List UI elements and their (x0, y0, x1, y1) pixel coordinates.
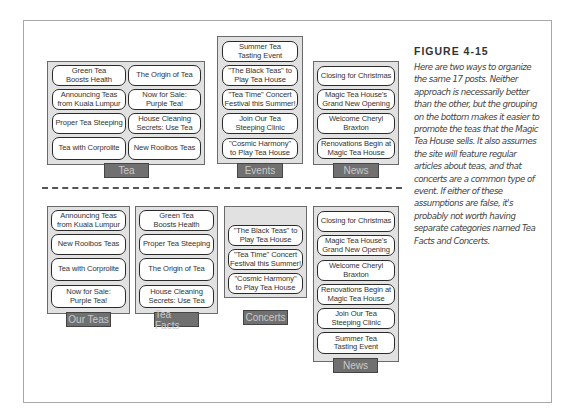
post-card: House Cleaning Secrets: Use Tea (139, 285, 214, 308)
post-card: Tea with Corprolite (51, 258, 126, 281)
post-card: Renovations Begin at Magic Tea House (317, 138, 395, 159)
post-card: Summer Tea Tasting Event (317, 332, 395, 354)
post-card: Magic Tea House's Grand New Opening (317, 235, 395, 256)
post-card: Join Our Tea Steeping Clinic (222, 113, 298, 134)
post-card: Magic Tea House's Grand New Opening (317, 89, 395, 110)
category-label-our-teas: Our Teas (66, 312, 111, 327)
post-card: "Tea Time" Concert Festival this Summer! (222, 89, 298, 110)
category-label-news: News (333, 163, 379, 178)
post-card: "The Black Teas" to Play Tea House (222, 65, 298, 86)
post-card: Closing for Christmas (317, 211, 395, 232)
category-label-concerts: Concerts (243, 310, 288, 325)
post-card: Proper Tea Steeping (52, 113, 126, 134)
post-card: Now for Sale: Purple Tea! (51, 285, 126, 308)
post-card: "The Black Teas" to Play Tea House (228, 225, 303, 246)
post-card: Announcing Teas from Kuala Lumpur (52, 89, 126, 110)
post-card: Summer Tea Tasting Event (222, 41, 298, 62)
post-card: Welcome Cheryl Braxton (317, 113, 395, 134)
category-label-news-bottom: News (333, 358, 378, 373)
post-card: Renovations Begin at Magic Tea House (317, 284, 395, 305)
category-label-events: Events (237, 163, 283, 178)
post-card: Announcing Teas from Kuala Lumpur (51, 210, 126, 231)
post-card: The Origin of Tea (139, 258, 214, 281)
post-card: The Origin of Tea (128, 65, 201, 86)
divider-dashed-line (42, 187, 402, 189)
post-card: New Rooibos Teas (51, 234, 126, 255)
post-card: Closing for Christmas (317, 66, 395, 86)
post-card: House Cleaning Secrets: Use Tea (128, 113, 201, 134)
post-card: Green Tea Boosts Health (52, 65, 126, 86)
post-card: Welcome Cheryl Braxton (317, 260, 395, 281)
post-card: Green Tea Boosts Health (139, 210, 214, 231)
post-card: New Rooibos Teas (128, 137, 201, 160)
post-card: Join Our Tea Steeping Clinic (317, 308, 395, 329)
post-card: Proper Tea Steeping (139, 234, 214, 255)
post-card: "Tea Time" Concert Festival this Summer! (228, 249, 303, 270)
figure-title: FIGURE 4-15 (414, 45, 489, 57)
post-card: "Cosmic Harmony" to Play Tea House (222, 138, 298, 159)
post-card: Now for Sale: Purple Tea! (128, 89, 201, 110)
post-card: Tea with Corprolite (52, 137, 126, 160)
category-label-tea-facts: Tea Facts (154, 312, 199, 327)
figure-caption: Here are two ways to organize the same 1… (414, 61, 542, 247)
post-card: "Cosmic Harmony" to Play Tea House (228, 273, 303, 294)
category-label-tea: Tea (104, 163, 149, 178)
